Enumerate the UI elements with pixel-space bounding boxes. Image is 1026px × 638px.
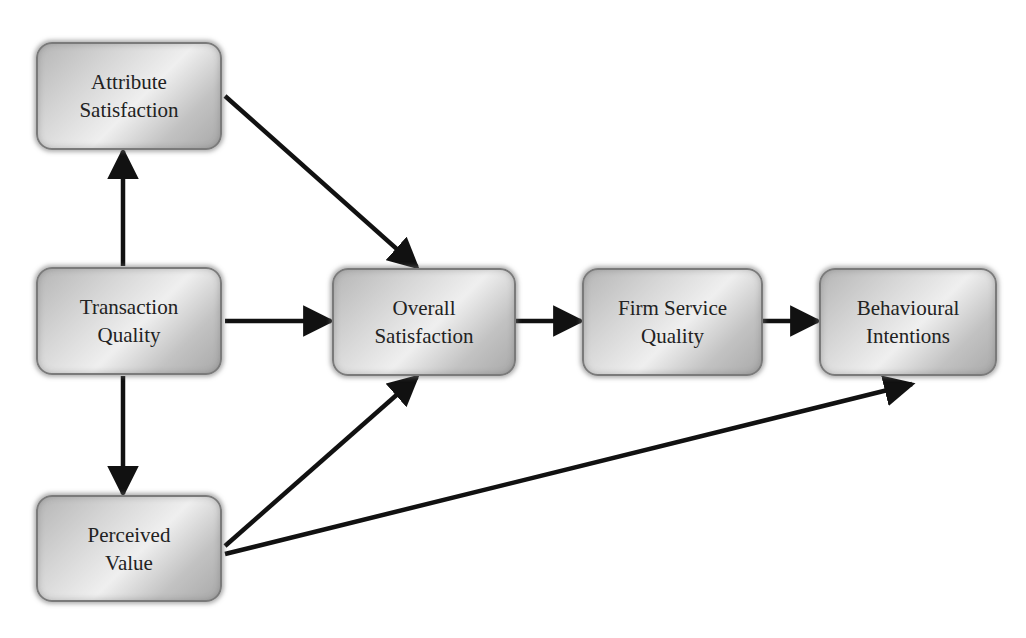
node-transaction-quality: Transaction Quality: [36, 267, 222, 375]
node-label: Perceived Value: [88, 521, 171, 577]
node-label: Firm Service Quality: [618, 294, 727, 350]
node-perceived-value: Perceived Value: [36, 495, 222, 602]
path-diagram: Attribute Satisfaction Transaction Quali…: [0, 0, 1026, 638]
node-label: Attribute Satisfaction: [79, 68, 178, 124]
node-label: Overall Satisfaction: [374, 294, 473, 350]
node-attribute-satisfaction: Attribute Satisfaction: [36, 42, 222, 150]
node-firm-service-quality: Firm Service Quality: [582, 268, 763, 376]
arrow-perceived-value-to-overall-satisfaction: [225, 377, 417, 546]
arrow-perceived-value-to-behavioural-intentions: [225, 384, 912, 554]
node-label: Transaction Quality: [80, 293, 178, 349]
node-behavioural-intentions: Behavioural Intentions: [819, 268, 997, 376]
node-label: Behavioural Intentions: [857, 294, 960, 350]
node-overall-satisfaction: Overall Satisfaction: [332, 268, 516, 376]
arrow-attribute-satisfaction-to-overall-satisfaction: [225, 96, 417, 267]
